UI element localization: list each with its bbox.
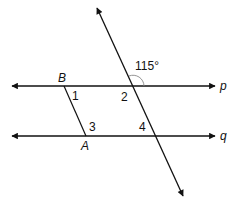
line-label-p: p <box>219 79 227 93</box>
angle-label-3: 3 <box>89 120 96 134</box>
geometry-diagram: 115° B A 1 2 3 4 p q <box>0 0 237 202</box>
angle-label-2: 2 <box>121 90 128 104</box>
point-label-a: A <box>80 139 89 153</box>
angle-label-1: 1 <box>72 89 79 103</box>
angle-label-4: 4 <box>139 120 146 134</box>
angle-label-115: 115° <box>135 59 159 73</box>
transversal-line <box>97 8 183 196</box>
line-label-q: q <box>220 129 227 143</box>
point-label-b: B <box>58 71 66 85</box>
